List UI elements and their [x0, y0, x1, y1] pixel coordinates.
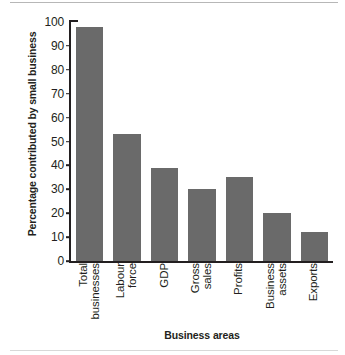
y-tick-label: 10 [34, 230, 64, 244]
x-tick-label-slot: GDP [151, 263, 179, 331]
y-tick-label: 50 [34, 135, 64, 149]
x-tick-label-slot: Businessassets [263, 263, 291, 331]
bar [301, 232, 329, 261]
x-tick-label-line: Business [265, 263, 277, 309]
y-tick-label: 0 [34, 254, 64, 268]
x-tick-label-slot: Grosssales [188, 263, 216, 331]
x-tick-label: Totalbusinesses [78, 263, 101, 320]
x-tick-label: Profits [234, 263, 246, 295]
x-tick-label-line: businesses [90, 263, 102, 320]
x-tick-label-line: assets [277, 263, 289, 309]
top-divider-rule [10, 2, 338, 3]
bar [76, 27, 104, 261]
y-tick-label: 30 [34, 182, 64, 196]
bar-series [71, 22, 333, 261]
bar [263, 213, 291, 261]
x-tick-label-slot: Profits [226, 263, 254, 331]
x-tick-label-line: GDP [159, 263, 171, 288]
x-tick-label-slot: Exports [301, 263, 329, 331]
y-tick-label: 90 [34, 39, 64, 53]
x-tick-label-line: Labour [116, 263, 128, 298]
y-tick-label: 60 [34, 111, 64, 125]
bar [226, 177, 254, 261]
x-tick-label: Businessassets [265, 263, 288, 309]
x-tick-label-line: sales [202, 263, 214, 293]
x-axis-tick-labels: TotalbusinessesLabourforceGDPGrosssalesP… [71, 263, 333, 331]
x-tick-label: Exports [308, 263, 320, 301]
x-tick-label: GDP [159, 263, 171, 288]
y-tick-label: 80 [34, 63, 64, 77]
x-axis-title: Business areas [71, 329, 333, 341]
x-tick-label-slot: Labourforce [113, 263, 141, 331]
x-tick-label: Labourforce [116, 263, 139, 298]
bar [188, 189, 216, 261]
x-tick-label-slot: Totalbusinesses [76, 263, 104, 331]
x-tick-label-line: force [127, 263, 139, 298]
y-tick-label: 70 [34, 87, 64, 101]
x-tick-label-line: Exports [308, 263, 320, 301]
y-tick-label: 40 [34, 158, 64, 172]
bar [113, 134, 141, 261]
x-tick-label-line: Gross [190, 263, 202, 293]
x-tick-label: Grosssales [190, 263, 213, 293]
y-tick-label: 100 [34, 15, 64, 29]
plot-area: 0102030405060708090100 [71, 22, 333, 261]
x-tick-label-line: Profits [234, 263, 246, 295]
x-tick-label-line: Total [78, 263, 90, 320]
bottom-divider-rule [10, 350, 338, 351]
bar [151, 168, 179, 261]
bar-chart-figure: Percentage contributed by small business… [0, 0, 345, 355]
y-tick-label: 20 [34, 206, 64, 220]
